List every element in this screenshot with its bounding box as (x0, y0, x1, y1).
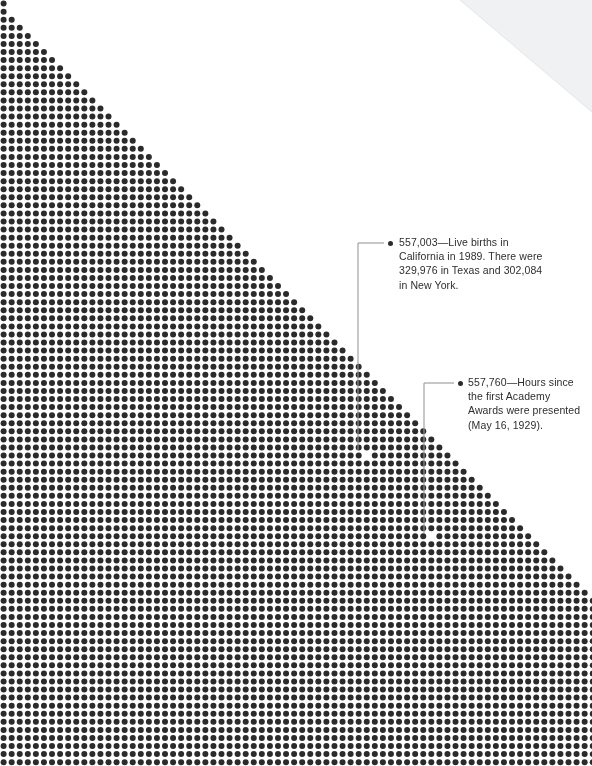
annotation-bullet-icon (458, 381, 463, 386)
infographic-page: 557,003—Live births in California in 198… (0, 0, 592, 766)
annotation-text-academy-awards: 557,760—Hours since the first Academy Aw… (468, 375, 588, 432)
annotation-text-births: 557,003—Live births in California in 198… (399, 235, 549, 292)
annotation-bullet-icon (388, 241, 393, 246)
